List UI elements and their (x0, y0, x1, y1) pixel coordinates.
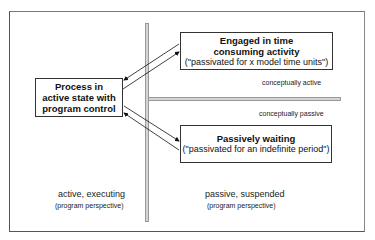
arrow-engaged-to-process (124, 44, 179, 80)
conceptually-active-label: conceptually active (262, 79, 321, 86)
waiting-note: ("passivated for an indefinite period") (181, 144, 331, 155)
arrow-waiting-to-process (124, 113, 179, 150)
process-line-1: Process in (36, 81, 122, 92)
engaged-title-2: consuming activity (181, 46, 332, 57)
process-line-2: active state with (36, 92, 122, 103)
left-perspective-sub: (program perspective) (55, 202, 123, 209)
process-line-3: program control (36, 103, 122, 114)
conceptually-passive-label: conceptually passive (259, 110, 324, 117)
passively-waiting-box: Passively waiting ("passivated for an in… (180, 125, 332, 163)
arrow-process-to-engaged (123, 52, 179, 89)
arrow-process-to-waiting (124, 106, 179, 141)
right-perspective-main: passive, suspended (205, 189, 285, 199)
engaged-activity-box: Engaged in time consuming activity ("pas… (180, 32, 333, 70)
waiting-title: Passively waiting (181, 133, 331, 144)
engaged-title-1: Engaged in time (181, 35, 332, 46)
left-perspective-main: active, executing (58, 189, 125, 199)
process-active-box: Process in active state with program con… (35, 78, 123, 117)
engaged-note: ("passivated for x model time units") (181, 57, 332, 68)
right-perspective-sub: (program perspective) (207, 202, 275, 209)
